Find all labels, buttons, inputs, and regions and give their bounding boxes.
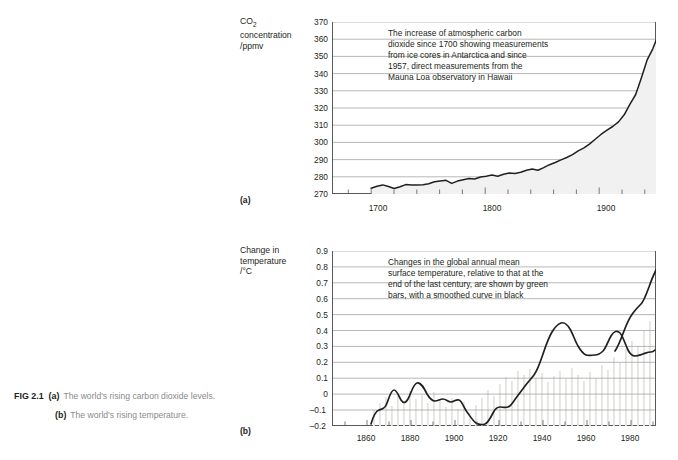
chart-b-axis-title-line3: /°C bbox=[240, 266, 252, 276]
caption-row-b: (b) The world's rising temperature. bbox=[55, 410, 236, 421]
chart-b-axis-title-line1: Change in bbox=[240, 245, 279, 255]
chart-a-axis-title-sub: 2 bbox=[253, 21, 257, 28]
chart-a-annotation: The increase of atmospheric carbon dioxi… bbox=[388, 28, 638, 83]
chart-b-ytick-neg0.1: –0.1 bbox=[300, 405, 326, 415]
chart-a-xtick-1800: 1800 bbox=[475, 203, 509, 213]
chart-a-ytick-340: 340 bbox=[302, 69, 328, 79]
chart-a-axis-title-line3: /ppmv bbox=[240, 41, 263, 51]
chart-b-ytick-0.8: 0.8 bbox=[302, 262, 328, 272]
chart-a-axis-title-line1: CO bbox=[240, 16, 253, 26]
panel-label-b: (b) bbox=[240, 426, 251, 436]
caption-label-a: (a) bbox=[49, 391, 60, 402]
chart-b-xtick-1900: 1900 bbox=[437, 433, 471, 443]
chart-b-xtick-1940: 1940 bbox=[525, 433, 559, 443]
chart-a-ytick-280: 280 bbox=[302, 172, 328, 182]
chart-a-xtick-1900: 1900 bbox=[589, 203, 623, 213]
chart-b-ytick-0: 0 bbox=[302, 389, 328, 399]
chart-a-ytick-360: 360 bbox=[302, 34, 328, 44]
chart-a-ytick-310: 310 bbox=[302, 120, 328, 130]
chart-a-ytick-370: 370 bbox=[302, 17, 328, 27]
chart-b-annotation: Changes in the global annual mean surfac… bbox=[388, 257, 640, 301]
chart-b-ytick-0.5: 0.5 bbox=[302, 310, 328, 320]
chart-b-ytick-0.2: 0.2 bbox=[302, 357, 328, 367]
chart-b-ytick-0.3: 0.3 bbox=[302, 341, 328, 351]
chart-b-xtick-1980: 1980 bbox=[613, 433, 647, 443]
figure-caption: FIG 2.1 (a) The world's rising carbon di… bbox=[14, 391, 236, 430]
chart-b-curve bbox=[371, 323, 655, 425]
chart-b-ytick-0.6: 0.6 bbox=[302, 294, 328, 304]
chart-a-ytick-350: 350 bbox=[302, 51, 328, 61]
chart-b-ytick-0.4: 0.4 bbox=[302, 326, 328, 336]
chart-b-axis-title-line2: temperature bbox=[240, 256, 286, 266]
chart-a-ytick-270: 270 bbox=[302, 189, 328, 199]
chart-a-axis-title-line2: concentration bbox=[240, 30, 292, 40]
chart-b-ytick-0.1: 0.1 bbox=[302, 373, 328, 383]
chart-a-ytick-300: 300 bbox=[302, 137, 328, 147]
chart-b-xtick-1860: 1860 bbox=[349, 433, 383, 443]
caption-fig-number: FIG 2.1 bbox=[14, 391, 44, 402]
chart-b-xtick-1920: 1920 bbox=[481, 433, 515, 443]
chart-b-ytick-neg0.2: –0.2 bbox=[300, 421, 326, 431]
figure-page: CO2 concentration /ppmv (a) 370 360 350 … bbox=[0, 0, 678, 460]
chart-a-ytick-290: 290 bbox=[302, 155, 328, 165]
chart-a-xtick-1700: 1700 bbox=[361, 203, 395, 213]
caption-text-a: The world's rising carbon dioxide levels… bbox=[63, 391, 236, 402]
chart-a-ytick-330: 330 bbox=[302, 86, 328, 96]
caption-text-b: The world's rising temperature. bbox=[70, 410, 236, 421]
panel-label-a: (a) bbox=[240, 195, 251, 205]
caption-row-a: FIG 2.1 (a) The world's rising carbon di… bbox=[14, 391, 236, 402]
chart-b-xtick-1880: 1880 bbox=[393, 433, 427, 443]
chart-b-ytick-0.9: 0.9 bbox=[302, 246, 328, 256]
caption-label-b: (b) bbox=[55, 410, 66, 421]
chart-co2-concentration: CO2 concentration /ppmv (a) 370 360 350 … bbox=[0, 0, 678, 230]
chart-b-xtick-1960: 1960 bbox=[569, 433, 603, 443]
chart-a-ytick-320: 320 bbox=[302, 103, 328, 113]
chart-b-ytick-0.7: 0.7 bbox=[302, 278, 328, 288]
